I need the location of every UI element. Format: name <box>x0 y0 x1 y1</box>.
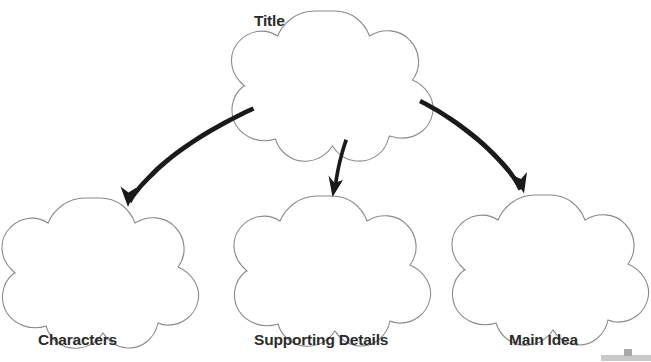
node-shape-supporting-details[interactable] <box>234 196 431 346</box>
arrow-title-to-main-idea <box>419 99 527 194</box>
scrollbar-thumb-artifact[interactable] <box>624 349 632 356</box>
node-shape-title[interactable] <box>231 11 433 161</box>
node-label-supporting-details: Supporting Details <box>254 332 388 348</box>
diagram-svg <box>0 0 651 362</box>
node-label-main-idea: Main Idea <box>509 332 578 348</box>
node-label-title: Title <box>254 13 285 29</box>
node-shape-characters[interactable] <box>2 198 199 348</box>
node-label-characters: Characters <box>38 332 117 348</box>
node-shape-main-idea[interactable] <box>452 195 649 345</box>
graphic-organizer-canvas: Title Characters Supporting Details Main… <box>0 0 651 362</box>
